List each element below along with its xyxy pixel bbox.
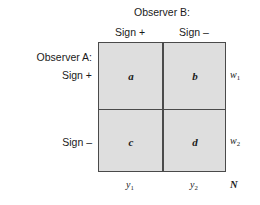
- cell-d: d: [163, 109, 227, 175]
- row-total-w2: w2: [230, 135, 258, 146]
- matrix-grid: a b c d: [98, 42, 226, 172]
- row-header-sign-minus: Sign –: [0, 136, 92, 148]
- contingency-table-figure: Observer B: Sign + Sign – Observer A: Si…: [0, 0, 260, 205]
- column-total-y1: y1: [98, 179, 162, 190]
- horizontal-divider: [99, 109, 225, 110]
- cell-a: a: [99, 43, 163, 109]
- row-header-sign-plus: Sign +: [0, 69, 92, 81]
- cell-c: c: [99, 109, 163, 175]
- vertical-divider: [162, 43, 163, 171]
- column-total-y2: y2: [162, 179, 226, 190]
- column-header-sign-plus: Sign +: [98, 26, 162, 38]
- column-group-title: Observer B:: [98, 6, 226, 18]
- grand-total-n: N: [230, 179, 258, 190]
- row-group-title: Observer A:: [0, 51, 92, 63]
- row-total-w1: w1: [230, 69, 258, 80]
- cell-b: b: [163, 43, 227, 109]
- column-header-sign-minus: Sign –: [162, 26, 226, 38]
